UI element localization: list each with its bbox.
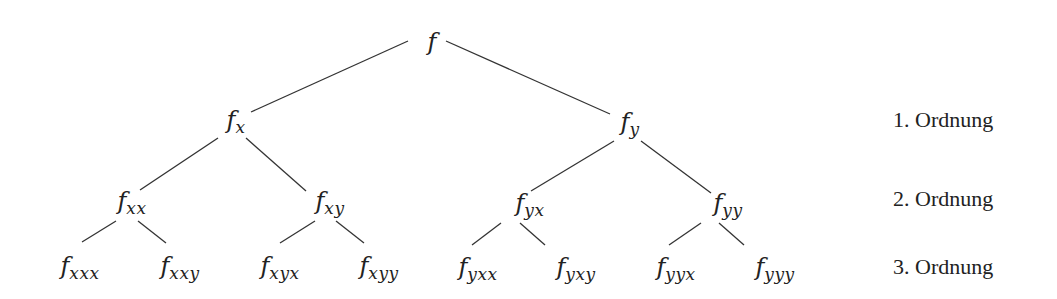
- node-subscript: yxy: [565, 264, 595, 284]
- node-fx: fx: [227, 106, 246, 137]
- node-subscript: yy: [722, 200, 742, 220]
- node-fyxx: fyxx: [458, 253, 497, 284]
- edge-fyx-fyxy: [520, 223, 545, 245]
- node-subscript: xyy: [368, 263, 398, 283]
- node-base: f: [315, 187, 324, 215]
- edge-fxy-fxyy: [336, 221, 364, 243]
- partial-derivative-tree: ffxfyfxxfxyfyxfyyfxxxfxxyfxyxfxyyfyxxfyx…: [0, 0, 1057, 299]
- edge-fx-fxx: [140, 138, 218, 190]
- node-subscript: yyx: [665, 264, 695, 284]
- node-base: f: [260, 252, 269, 280]
- edge-fy-fyy: [641, 141, 711, 193]
- node-fyx: fyx: [515, 189, 544, 220]
- node-subscript: y: [629, 119, 639, 139]
- node-subscript: xyx: [269, 263, 299, 283]
- node-fyyx: fyyx: [656, 253, 695, 284]
- edge-fy-fyx: [531, 141, 614, 191]
- node-fxyx: fxyx: [260, 252, 299, 283]
- node-fxyy: fxyy: [359, 252, 398, 283]
- node-base: f: [428, 28, 437, 56]
- node-base: f: [458, 253, 467, 281]
- node-fyy: fyy: [713, 189, 742, 220]
- edge-f-fy: [446, 41, 610, 114]
- edge-fxx-fxxx: [82, 221, 116, 242]
- node-fy: fy: [621, 108, 640, 139]
- node-base: f: [556, 253, 565, 281]
- node-base: f: [60, 252, 69, 280]
- order-label-1: 1. Ordnung: [893, 107, 993, 133]
- node-f: f: [428, 28, 437, 56]
- node-fxxx: fxxx: [60, 252, 99, 283]
- node-fxy: fxy: [315, 187, 344, 218]
- edge-fyx-fyxx: [472, 223, 501, 245]
- edge-fxy-fxyx: [280, 221, 315, 243]
- edge-fx-fxy: [246, 138, 306, 191]
- node-base: f: [160, 252, 169, 280]
- node-base: f: [621, 108, 630, 136]
- node-base: f: [227, 106, 236, 134]
- edge-fyy-fyyy: [719, 223, 744, 245]
- node-subscript: yyy: [764, 264, 794, 284]
- node-fxx: fxx: [117, 187, 146, 218]
- node-subscript: x: [235, 117, 245, 137]
- edge-f-fx: [251, 41, 408, 112]
- node-subscript: xxx: [69, 263, 99, 283]
- node-base: f: [713, 189, 722, 217]
- node-subscript: xxy: [169, 263, 199, 283]
- edge-fxx-fxxy: [138, 221, 166, 243]
- node-fyyy: fyyy: [755, 253, 794, 284]
- node-base: f: [117, 187, 126, 215]
- node-base: f: [515, 189, 524, 217]
- node-subscript: yx: [524, 200, 544, 220]
- node-base: f: [359, 252, 368, 280]
- order-label-2: 2. Ordnung: [893, 186, 993, 212]
- node-subscript: xx: [126, 198, 146, 218]
- node-fxxy: fxxy: [160, 252, 199, 283]
- node-fyxy: fyxy: [556, 253, 595, 284]
- node-subscript: yxx: [467, 264, 497, 284]
- order-label-3: 3. Ordnung: [893, 254, 993, 280]
- node-base: f: [656, 253, 665, 281]
- node-base: f: [755, 253, 764, 281]
- edge-fyy-fyyx: [669, 223, 701, 245]
- node-subscript: xy: [324, 198, 344, 218]
